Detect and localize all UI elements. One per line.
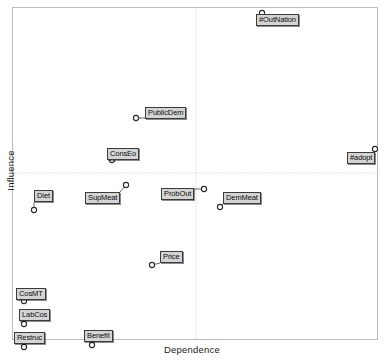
data-point-marker[interactable] <box>133 115 138 120</box>
point-label-conseo[interactable]: ConsEo <box>107 148 139 160</box>
data-point-marker[interactable] <box>201 186 206 191</box>
data-point-markers <box>21 10 377 349</box>
y-axis-title: Influence <box>5 141 16 201</box>
point-label-outnation[interactable]: #OutNation <box>256 14 299 26</box>
x-axis-title: Dependence <box>0 344 384 355</box>
point-label-cosmt[interactable]: CosMT <box>16 288 46 300</box>
data-point-marker[interactable] <box>21 321 26 326</box>
data-point-marker[interactable] <box>149 262 154 267</box>
data-point-marker[interactable] <box>123 182 128 187</box>
point-label-restruc[interactable]: Restruc <box>14 332 45 344</box>
point-label-adopt[interactable]: #adopt <box>347 152 375 164</box>
grid-lines <box>13 8 378 340</box>
point-label-labcos[interactable]: LabCos <box>19 309 50 321</box>
point-label-demmeat[interactable]: DemMeat <box>223 192 261 204</box>
point-label-probout[interactable]: ProbOut <box>161 188 194 200</box>
point-label-price[interactable]: Price <box>160 251 183 263</box>
point-label-benefit[interactable]: Benefit <box>84 330 113 342</box>
point-label-diet[interactable]: Diet <box>34 190 53 202</box>
data-point-marker[interactable] <box>372 146 377 151</box>
data-point-marker[interactable] <box>217 204 222 209</box>
scatter-plot-svg <box>0 0 384 360</box>
point-label-publicdem[interactable]: PublicDem <box>145 107 186 119</box>
point-label-supmeat[interactable]: SupMeat <box>85 192 120 204</box>
chart-canvas: Influence Dependence #OutNation#adoptPub… <box>0 0 384 360</box>
data-point-marker[interactable] <box>31 207 36 212</box>
